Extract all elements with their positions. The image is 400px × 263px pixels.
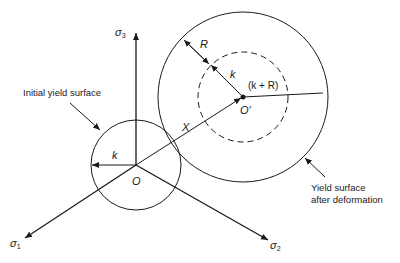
new-origin-label: O′ (240, 104, 252, 116)
after-surface-leader (305, 158, 325, 177)
sigma1-axis (25, 165, 136, 238)
sigma2-axis (136, 165, 268, 240)
after-surface-label-line2: after deformation (311, 194, 383, 205)
origin-label: O (132, 175, 141, 187)
k-new-label: k (230, 68, 236, 80)
r-label: R (200, 38, 208, 50)
sigma2-label: σ2 (270, 239, 281, 252)
x-label: X (181, 121, 190, 133)
yield-surface-diagram: σ3 σ1 σ2 Initial yield surface Yield sur… (0, 0, 400, 263)
k-initial-label: k (112, 149, 118, 161)
sigma3-label: σ3 (115, 26, 126, 39)
k-plus-r-label: (k + R) (248, 80, 278, 91)
initial-surface-label: Initial yield surface (23, 87, 101, 98)
k-plus-r-radius (243, 93, 323, 97)
initial-surface-leader (70, 103, 100, 130)
after-surface-label-line1: Yield surface (311, 182, 366, 193)
sigma1-label: σ1 (10, 237, 21, 250)
diagram-svg: σ3 σ1 σ2 Initial yield surface Yield sur… (0, 0, 400, 263)
k-radius-new (211, 65, 243, 97)
